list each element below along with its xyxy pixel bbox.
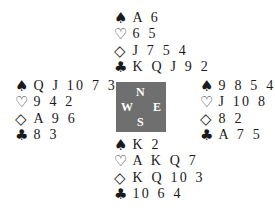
east-hand: ♠ 9 8 5 4 ♡ J 10 8 3 ◇ 8 2 ♣ A 7 5 [200, 78, 274, 143]
spade-icon: ♠ [114, 137, 129, 153]
diamond-icon: ◇ [15, 111, 30, 127]
compass-east-label: E [153, 101, 161, 113]
north-hearts-row: ♡ 6 5 [114, 26, 210, 42]
east-clubs-cards: A 7 5 [219, 127, 262, 142]
east-hearts-cards: J 10 8 3 [219, 94, 275, 109]
north-diamonds-cards: J 7 5 4 [133, 43, 188, 58]
south-diamonds-row: ◇ K Q 10 3 [114, 170, 205, 186]
spade-icon: ♠ [114, 10, 129, 26]
compass-north-label: N [136, 86, 145, 98]
north-clubs-row: ♣ K Q J 9 2 [114, 59, 210, 75]
east-spades-cards: 9 8 5 4 [219, 78, 275, 93]
compass-south-label: S [137, 116, 144, 128]
north-spades-row: ♠ A 6 [114, 10, 210, 26]
west-hand: ♠ Q J 10 7 3 ♡ 9 4 2 ◇ A 9 6 ♣ 8 3 [15, 78, 117, 143]
west-diamonds-cards: A 9 6 [34, 111, 77, 126]
diamond-icon: ◇ [200, 111, 215, 127]
south-hearts-row: ♡ A K Q 7 [114, 153, 205, 169]
club-icon: ♣ [15, 127, 30, 143]
spade-icon: ♠ [200, 78, 215, 94]
west-diamonds-row: ◇ A 9 6 [15, 111, 117, 127]
spade-icon: ♠ [15, 78, 30, 94]
south-hand: ♠ K 2 ♡ A K Q 7 ◇ K Q 10 3 ♣ 10 6 4 [114, 137, 205, 202]
club-icon: ♣ [114, 59, 129, 75]
west-clubs-row: ♣ 8 3 [15, 127, 117, 143]
west-hearts-row: ♡ 9 4 2 [15, 94, 117, 110]
heart-icon: ♡ [200, 94, 215, 110]
north-hearts-cards: 6 5 [133, 26, 158, 41]
east-diamonds-row: ◇ 8 2 [200, 111, 274, 127]
diamond-icon: ◇ [114, 43, 129, 59]
heart-icon: ♡ [15, 94, 30, 110]
north-clubs-cards: K Q J 9 2 [133, 59, 210, 74]
diamond-icon: ◇ [114, 170, 129, 186]
heart-icon: ♡ [114, 153, 129, 169]
north-hand: ♠ A 6 ♡ 6 5 ◇ J 7 5 4 ♣ K Q J 9 2 [114, 10, 210, 75]
east-clubs-row: ♣ A 7 5 [200, 127, 274, 143]
east-spades-row: ♠ 9 8 5 4 [200, 78, 274, 94]
west-hearts-cards: 9 4 2 [34, 94, 75, 109]
south-spades-cards: K 2 [133, 137, 161, 152]
north-diamonds-row: ◇ J 7 5 4 [114, 43, 210, 59]
east-diamonds-cards: 8 2 [219, 111, 244, 126]
east-hearts-row: ♡ J 10 8 3 [200, 94, 274, 110]
south-hearts-cards: A K Q 7 [133, 153, 198, 168]
compass-box: N W E S [116, 82, 166, 132]
west-clubs-cards: 8 3 [34, 127, 59, 142]
compass-west-label: W [121, 101, 133, 113]
south-spades-row: ♠ K 2 [114, 137, 205, 153]
north-spades-cards: A 6 [133, 10, 160, 25]
south-diamonds-cards: K Q 10 3 [133, 170, 205, 185]
west-spades-cards: Q J 10 7 3 [34, 78, 118, 93]
heart-icon: ♡ [114, 26, 129, 42]
south-clubs-cards: 10 6 4 [133, 186, 183, 201]
west-spades-row: ♠ Q J 10 7 3 [15, 78, 117, 94]
south-clubs-row: ♣ 10 6 4 [114, 186, 205, 202]
club-icon: ♣ [114, 186, 129, 202]
